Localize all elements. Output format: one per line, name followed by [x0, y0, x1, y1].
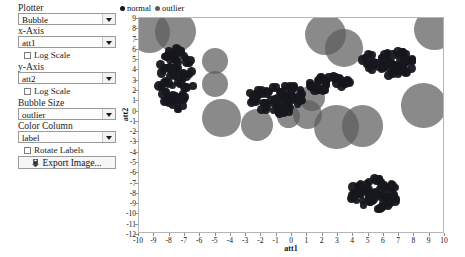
data-bubble	[168, 91, 178, 101]
plot-frame	[138, 17, 444, 233]
y-log-scale-label: Log Scale	[34, 86, 70, 96]
bubble-size-select[interactable]: outlier	[18, 108, 116, 120]
data-bubble	[202, 99, 240, 137]
x-tick-mark	[245, 233, 246, 236]
chevron-down-icon[interactable]	[102, 132, 115, 142]
x-tick-mark	[199, 233, 200, 236]
legend-label: normal	[127, 3, 151, 13]
data-bubble	[401, 83, 444, 127]
x-tick-mark	[291, 233, 292, 236]
x-tick-mark	[230, 233, 231, 236]
x-tick-mark	[368, 233, 369, 236]
y-axis-select[interactable]: att2	[18, 72, 116, 84]
x-tick-mark	[352, 233, 353, 236]
data-bubble	[158, 89, 168, 99]
data-bubble	[348, 182, 357, 191]
save-disk-icon	[32, 159, 39, 167]
rotate-labels-checkbox[interactable]: Rotate Labels	[24, 144, 84, 156]
data-bubble	[376, 178, 385, 187]
data-bubble	[394, 70, 402, 78]
data-bubble	[414, 17, 444, 50]
data-bubble	[274, 102, 282, 110]
data-bubble	[401, 59, 409, 67]
color-column-select[interactable]: label	[18, 131, 116, 143]
x-axis-select[interactable]: att1	[18, 36, 116, 48]
data-bubble	[342, 105, 383, 146]
bubble-plot-app: Plotter Bubble x-Axis att1 Log Scale y-A…	[0, 0, 465, 257]
x-axis-title: att1	[138, 244, 444, 253]
x-tick-mark	[276, 233, 277, 236]
data-bubble	[364, 185, 373, 194]
x-tick-mark	[138, 233, 139, 236]
data-bubble	[258, 90, 266, 98]
data-bubble	[161, 64, 168, 71]
x-axis-value: att1	[22, 37, 101, 49]
data-bubble	[172, 70, 181, 79]
x-tick-mark	[306, 233, 307, 236]
data-bubble	[277, 88, 285, 96]
export-image-label: Export Image...	[42, 158, 101, 168]
data-bubble	[296, 98, 304, 106]
x-tick-mark	[444, 233, 445, 236]
plotter-select[interactable]: Bubble	[18, 13, 116, 25]
data-bubble	[186, 70, 194, 78]
checkbox-box[interactable]	[24, 147, 31, 154]
data-bubble	[401, 67, 410, 76]
legend-swatch	[155, 6, 160, 11]
control-panel: Plotter Bubble x-Axis att1 Log Scale y-A…	[0, 0, 118, 257]
chevron-down-icon[interactable]	[102, 37, 115, 47]
chevron-down-icon[interactable]	[102, 73, 115, 83]
data-bubble	[344, 78, 352, 86]
legend-label: outlier	[162, 3, 184, 13]
y-axis-value: att2	[22, 73, 101, 85]
data-bubble	[384, 71, 393, 80]
export-image-button[interactable]: Export Image...	[18, 156, 116, 169]
data-bubble	[269, 83, 277, 91]
data-bubble	[409, 58, 416, 65]
x-tick-mark	[260, 233, 261, 236]
rotate-labels-label: Rotate Labels	[34, 145, 84, 155]
x-tick-mark	[429, 233, 430, 236]
x-log-scale-label: Log Scale	[34, 50, 70, 60]
data-bubble	[388, 181, 397, 190]
x-tick-mark	[153, 233, 154, 236]
data-bubble	[260, 99, 267, 106]
legend-item-outlier: outlier	[155, 3, 184, 13]
data-bubble	[202, 71, 228, 97]
data-bubble	[398, 48, 406, 56]
y-axis-title: att2	[121, 100, 130, 130]
data-bubble	[368, 66, 376, 74]
x-tick-mark	[184, 233, 185, 236]
checkbox-box[interactable]	[24, 52, 31, 59]
data-bubble	[166, 55, 175, 64]
x-log-scale-checkbox[interactable]: Log Scale	[24, 49, 70, 61]
data-bubble	[186, 56, 195, 65]
x-tick-mark	[169, 233, 170, 236]
x-tick-mark	[383, 233, 384, 236]
x-tick-mark	[215, 233, 216, 236]
y-log-scale-checkbox[interactable]: Log Scale	[24, 85, 70, 97]
data-bubble	[318, 85, 328, 95]
legend-item-normal: normal	[120, 3, 151, 13]
data-bubble	[179, 93, 186, 100]
data-bubble	[348, 191, 357, 200]
x-tick-mark	[413, 233, 414, 236]
chevron-down-icon[interactable]	[102, 14, 115, 24]
x-tick-mark	[322, 233, 323, 236]
bubble-size-value: outlier	[22, 109, 101, 121]
checkbox-box[interactable]	[24, 88, 31, 95]
chart-legend: normal outlier	[118, 2, 465, 14]
color-column-value: label	[22, 132, 101, 144]
chevron-down-icon[interactable]	[102, 109, 115, 119]
data-bubble	[385, 58, 393, 66]
plotter-value: Bubble	[22, 14, 101, 26]
data-bubble	[384, 202, 393, 211]
data-bubble	[360, 201, 368, 209]
plot-area: normal outlier 9876543210-1-2-3-4-5-6-7-…	[118, 0, 465, 257]
x-tick-mark	[337, 233, 338, 236]
legend-swatch	[120, 6, 125, 11]
x-tick-mark	[398, 233, 399, 236]
data-bubble	[241, 109, 273, 141]
